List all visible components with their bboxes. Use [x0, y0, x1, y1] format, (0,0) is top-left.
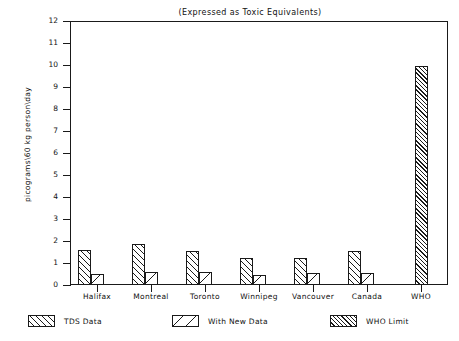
bar	[78, 250, 91, 285]
x-axis-tick	[421, 285, 422, 292]
legend-item: TDS Data	[28, 312, 102, 330]
y-axis-tick-label: 12	[36, 17, 58, 25]
y-axis-tick-label: 1	[36, 259, 58, 267]
y-axis-tick-label: 2	[36, 237, 58, 245]
y-axis-label: picograms\60 kg person\day	[23, 55, 32, 235]
bar	[240, 258, 253, 286]
y-axis-tick-label: 0	[36, 281, 58, 289]
bar	[415, 66, 428, 285]
bar	[186, 251, 199, 285]
x-axis-tick-label: WHO	[386, 292, 456, 301]
y-axis-tick-label: 8	[36, 105, 58, 113]
bar	[199, 272, 212, 285]
bar	[145, 272, 158, 285]
bar-chart: (Expressed as Toxic Equivalents) picogra…	[0, 0, 459, 341]
legend-swatch-icon	[330, 315, 357, 327]
y-axis-tick-label: 9	[36, 83, 58, 91]
plot-area	[70, 21, 448, 285]
y-axis-tick-label: 7	[36, 127, 58, 135]
y-axis-tick-label: 6	[36, 149, 58, 157]
legend-swatch-icon	[172, 315, 199, 327]
legend-label: TDS Data	[64, 317, 102, 326]
y-axis-tick-label: 10	[36, 61, 58, 69]
x-axis-tick	[97, 285, 98, 292]
y-axis-tick-label: 5	[36, 171, 58, 179]
bar	[361, 273, 374, 285]
bar	[132, 244, 145, 285]
x-axis-tick	[367, 285, 368, 292]
bar	[348, 251, 361, 285]
x-axis-tick	[205, 285, 206, 292]
x-axis-tick	[259, 285, 260, 292]
legend-swatch-icon	[28, 315, 55, 327]
x-axis-tick	[151, 285, 152, 292]
bar	[91, 274, 104, 285]
chart-title: (Expressed as Toxic Equivalents)	[150, 8, 350, 17]
y-axis-tick-label: 4	[36, 193, 58, 201]
legend-label: WHO Limit	[366, 317, 409, 326]
bar	[307, 273, 320, 285]
bar	[253, 275, 266, 285]
y-axis-tick-label: 3	[36, 215, 58, 223]
legend-label: With New Data	[208, 317, 268, 326]
y-axis-tick	[63, 285, 71, 286]
x-axis-tick	[313, 285, 314, 292]
legend-item: With New Data	[172, 312, 268, 330]
legend-item: WHO Limit	[330, 312, 409, 330]
chart-legend: TDS DataWith New DataWHO Limit	[0, 312, 459, 336]
y-axis-tick-label: 11	[36, 39, 58, 47]
bar	[294, 258, 307, 286]
